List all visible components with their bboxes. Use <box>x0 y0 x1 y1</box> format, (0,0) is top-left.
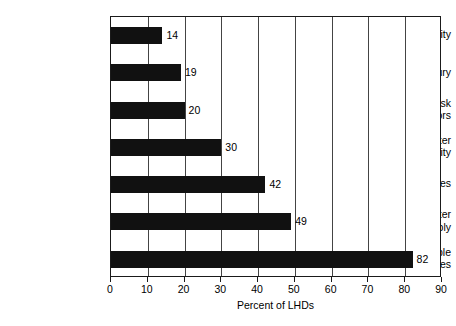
bar-value-label: 20 <box>185 102 201 119</box>
x-axis-tick-label: 30 <box>205 283 235 295</box>
bar <box>111 64 181 81</box>
bar <box>111 213 291 230</box>
x-axis-tick-mark <box>147 277 148 282</box>
x-axis-tick-label: 10 <box>132 283 162 295</box>
x-axis-tick-mark <box>257 277 258 282</box>
bar-row: 19 <box>111 54 440 91</box>
bar-row: 14 <box>111 17 440 54</box>
bar-value-label: 14 <box>162 27 178 44</box>
x-axis-tick-label: 60 <box>316 283 346 295</box>
bar-value-label: 30 <box>221 139 237 156</box>
x-axis-tick-mark <box>367 277 368 282</box>
x-axis-tick-mark <box>110 277 111 282</box>
bar <box>111 139 221 156</box>
x-axis-tick-label: 90 <box>426 283 456 295</box>
bar <box>111 251 413 268</box>
bar-value-label: 19 <box>181 64 197 81</box>
x-axis-tick-mark <box>220 277 221 282</box>
bar-row: 20 <box>111 92 440 129</box>
bar <box>111 102 185 119</box>
x-axis-tick-mark <box>404 277 405 282</box>
bar-value-label: 42 <box>265 176 281 193</box>
bar <box>111 27 162 44</box>
x-axis-tick-label: 80 <box>389 283 419 295</box>
bar <box>111 176 265 193</box>
bar-row: 49 <box>111 203 440 240</box>
x-axis-tick-mark <box>441 277 442 282</box>
x-axis-tick-label: 70 <box>352 283 382 295</box>
bar-value-label: 82 <box>413 251 429 268</box>
x-axis-tick-label: 20 <box>169 283 199 295</box>
x-axis-title: Percent of LHDs <box>110 299 441 311</box>
bar-chart-figure: Air qualityInjuryBehavioral riskfactorsR… <box>0 0 456 326</box>
x-axis-tick-mark <box>331 277 332 282</box>
x-axis-tick-label: 40 <box>242 283 272 295</box>
plot-area: 14192030424982 <box>110 16 441 277</box>
x-axis-tick-labels: 0102030405060708090 <box>0 283 456 299</box>
bar-row: 42 <box>111 166 440 203</box>
bar-row: 82 <box>111 241 440 278</box>
x-axis-tick-label: 50 <box>279 283 309 295</box>
x-axis-tick-mark <box>184 277 185 282</box>
x-axis-tick-label: 0 <box>95 283 125 295</box>
bar-value-label: 49 <box>291 213 307 230</box>
x-axis-tick-mark <box>294 277 295 282</box>
bar-row: 30 <box>111 129 440 166</box>
